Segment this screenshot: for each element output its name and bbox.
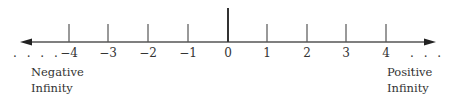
negative-infinity-line2: Infinity [31,80,84,96]
tick-label: 2 [303,46,311,60]
tick-label: −1 [179,46,197,60]
tick-label: −2 [139,46,157,60]
tick-marks [69,8,386,42]
right-arrow-icon [424,39,436,46]
number-line-diagram: . . . . . . . . −4−3−2−101234 Negative I… [0,0,455,96]
tick-label: 4 [382,46,390,60]
tick-label: −3 [99,46,117,60]
left-arrow-icon [20,39,32,46]
positive-infinity-line1: Positive [387,64,432,80]
tick-label: 1 [263,46,271,60]
negative-infinity-line1: Negative [31,64,84,80]
tick-label: 0 [224,46,232,60]
tick-label: 3 [342,46,350,60]
negative-infinity-label: Negative Infinity [31,64,84,96]
positive-infinity-line2: Infinity [387,80,432,96]
tick-label: −4 [60,46,78,60]
positive-infinity-label: Positive Infinity [387,64,432,96]
left-continuation-dots: . . . . [13,46,61,60]
